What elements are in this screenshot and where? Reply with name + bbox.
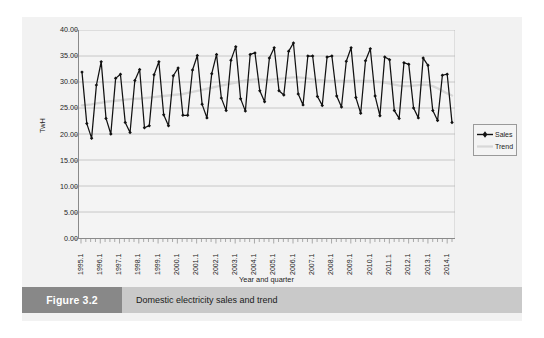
x-tick-label: 1998.1 — [134, 254, 141, 275]
data-point-marker — [239, 97, 242, 100]
x-tick-label: 2002.1 — [212, 254, 219, 275]
data-point-marker — [445, 72, 448, 75]
x-axis-title: Year and quarter — [78, 275, 455, 284]
data-point-marker — [181, 114, 184, 117]
data-point-marker — [229, 58, 232, 61]
y-tick-label: 35.00 — [26, 53, 78, 60]
chart-container: TwH 0.005.0010.0015.0020.0025.0030.0035.… — [22, 17, 522, 283]
x-tick-label: 2014.1 — [443, 254, 450, 275]
data-point-marker — [109, 132, 112, 135]
x-tick-label: 2009.1 — [346, 254, 353, 275]
plot-svg — [79, 30, 455, 238]
data-point-marker — [148, 124, 151, 127]
data-point-marker — [306, 54, 309, 57]
data-point-marker — [191, 68, 194, 71]
figure-caption-bar: Figure 3.2 Domestic electricity sales an… — [22, 287, 522, 313]
data-point-marker — [157, 60, 160, 63]
data-point-marker — [364, 59, 367, 62]
data-point-marker — [296, 92, 299, 95]
x-tick-label: 2013.1 — [424, 254, 431, 275]
legend-item-trend: Trend — [477, 140, 514, 152]
figure-page: TwH 0.005.0010.0015.0020.0025.0030.0035.… — [0, 0, 544, 338]
chart-legend: Sales Trend — [473, 124, 517, 156]
data-point-marker — [138, 68, 141, 71]
figure-number-tag: Figure 3.2 — [22, 287, 122, 313]
x-tick-label: 1996.1 — [96, 254, 103, 275]
y-tick-label: 30.00 — [26, 79, 78, 86]
data-point-marker — [143, 126, 146, 129]
data-point-marker — [196, 54, 199, 57]
data-point-marker — [95, 83, 98, 86]
figure-panel: TwH 0.005.0010.0015.0020.0025.0030.0035.… — [22, 17, 522, 321]
data-point-marker — [220, 96, 223, 99]
data-point-marker — [378, 114, 381, 117]
x-tick-label: 2008.1 — [327, 254, 334, 275]
gridlines — [79, 30, 455, 238]
legend-swatch-sales-icon — [477, 130, 493, 139]
legend-label-sales: Sales — [495, 131, 513, 138]
x-tick-label: 2007.1 — [308, 254, 315, 275]
legend-label-trend: Trend — [495, 143, 513, 150]
data-point-marker — [104, 117, 107, 120]
data-point-marker — [244, 109, 247, 112]
y-tick-label: 10.00 — [26, 183, 78, 190]
data-point-marker — [354, 96, 357, 99]
x-tick-label: 2001.1 — [192, 254, 199, 275]
y-tick-label: 40.00 — [26, 26, 78, 33]
x-tick-label: 2012.1 — [404, 254, 411, 275]
y-axis-ticks: 0.005.0010.0015.0020.0025.0030.0035.0040… — [22, 30, 78, 239]
x-axis-ticks: 1995.11996.11997.11998.11999.12000.12001… — [78, 239, 455, 275]
figure-caption-wrap: Domestic electricity sales and trend — [122, 287, 522, 313]
x-tick-label: 2005.1 — [269, 254, 276, 275]
data-point-marker — [85, 122, 88, 125]
data-point-marker — [330, 54, 333, 57]
data-point-marker — [210, 72, 213, 75]
x-tick-label: 1995.1 — [77, 254, 84, 275]
x-tick-label: 2000.1 — [173, 254, 180, 275]
data-point-marker — [224, 109, 227, 112]
x-tick-label: 2004.1 — [250, 254, 257, 275]
data-point-marker — [80, 70, 83, 73]
y-tick-label: 15.00 — [26, 157, 78, 164]
series-path-sales — [82, 43, 452, 138]
data-point-marker — [234, 45, 237, 48]
x-tick-label: 1997.1 — [115, 254, 122, 275]
data-point-marker — [258, 89, 261, 92]
y-tick-label: 5.00 — [26, 209, 78, 216]
data-point-marker — [345, 59, 348, 62]
x-tick-label: 2011.1 — [385, 254, 392, 275]
y-tick-label: 0.00 — [26, 235, 78, 242]
x-tick-label: 2003.1 — [231, 254, 238, 275]
data-point-marker — [349, 46, 352, 49]
data-point-marker — [162, 113, 165, 116]
data-point-marker — [301, 103, 304, 106]
data-point-marker — [99, 60, 102, 63]
data-point-marker — [335, 94, 338, 97]
data-point-marker — [311, 54, 314, 57]
legend-swatch-trend-icon — [477, 142, 493, 151]
data-point-marker — [186, 114, 189, 117]
data-point-marker — [450, 121, 453, 124]
figure-caption-text: Domestic electricity sales and trend — [136, 295, 278, 305]
x-tick-label: 2010.1 — [366, 254, 373, 275]
plot-area — [78, 30, 455, 239]
data-point-marker — [205, 116, 208, 119]
data-point-marker — [407, 63, 410, 66]
data-point-marker — [441, 73, 444, 76]
y-tick-label: 25.00 — [26, 105, 78, 112]
data-point-marker — [263, 100, 266, 103]
data-point-marker — [373, 94, 376, 97]
x-tick-label: 1999.1 — [154, 254, 161, 275]
data-point-marker — [90, 136, 93, 139]
data-point-marker — [369, 47, 372, 50]
x-tick-label: 2006.1 — [289, 254, 296, 275]
data-point-marker — [253, 51, 256, 54]
data-point-marker — [152, 73, 155, 76]
data-point-marker — [402, 61, 405, 64]
data-point-marker — [359, 111, 362, 114]
data-point-marker — [200, 103, 203, 106]
y-tick-label: 20.00 — [26, 131, 78, 138]
data-point-marker — [167, 124, 170, 127]
legend-item-sales: Sales — [477, 128, 514, 140]
